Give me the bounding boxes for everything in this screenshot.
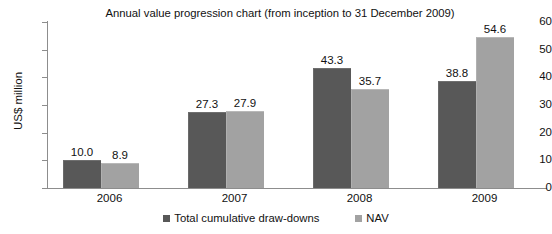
chart-title: Annual value progression chart (from inc… bbox=[60, 6, 500, 20]
y-tick bbox=[42, 188, 47, 189]
legend-label: Total cumulative draw-downs bbox=[174, 212, 319, 224]
legend-swatch-icon bbox=[355, 215, 362, 222]
legend-item-draw-downs[interactable]: Total cumulative draw-downs bbox=[163, 212, 319, 224]
x-axis-label: 2006 bbox=[47, 192, 172, 205]
bar-2008-series1 bbox=[351, 89, 389, 188]
bar-value-label: 27.9 bbox=[220, 97, 270, 109]
bar-chart: Annual value progression chart (from inc… bbox=[0, 0, 552, 234]
chart-legend: Total cumulative draw-downsNAV bbox=[0, 211, 552, 224]
bar-value-label: 35.7 bbox=[345, 75, 395, 87]
bar-value-label: 43.3 bbox=[307, 54, 357, 66]
bar-2007-series1 bbox=[226, 111, 264, 188]
bar-2009-series1 bbox=[476, 37, 514, 188]
bar-value-label: 54.6 bbox=[470, 23, 520, 35]
legend-item-nav[interactable]: NAV bbox=[355, 212, 388, 224]
legend-label: NAV bbox=[366, 212, 388, 224]
x-axis-label: 2008 bbox=[297, 192, 422, 205]
x-axis-label: 2009 bbox=[422, 192, 547, 205]
bar-2007-series0 bbox=[188, 112, 226, 188]
plot-area: 10.08.927.327.943.335.738.854.6 bbox=[47, 22, 547, 188]
bar-value-label: 38.8 bbox=[432, 67, 482, 79]
bar-value-label: 8.9 bbox=[95, 149, 145, 161]
bar-2009-series0 bbox=[438, 81, 476, 188]
y-axis-title: US$ million bbox=[12, 59, 24, 143]
x-axis-label: 2007 bbox=[172, 192, 297, 205]
bar-2006-series0 bbox=[63, 160, 101, 188]
bar-2006-series1 bbox=[101, 163, 139, 188]
legend-swatch-icon bbox=[163, 215, 170, 222]
x-axis-line bbox=[47, 188, 547, 189]
